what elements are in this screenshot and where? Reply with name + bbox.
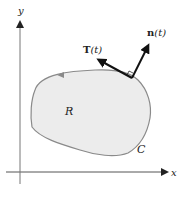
tangent-label: T(t) xyxy=(83,44,102,55)
region-r xyxy=(31,70,151,156)
diagram: x y T(t) n(t) R C xyxy=(0,0,184,197)
y-axis-label: y xyxy=(17,5,24,16)
x-axis-label: x xyxy=(171,167,177,178)
normal-label: n(t) xyxy=(147,27,166,38)
curve-label: C xyxy=(137,143,146,156)
normal-arg: (t) xyxy=(154,27,166,38)
normal-vector xyxy=(132,46,148,78)
tangent-arg: (t) xyxy=(90,44,102,55)
region-label: R xyxy=(64,105,73,118)
